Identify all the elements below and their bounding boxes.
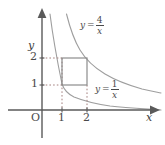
fraction-numerator: 4: [96, 16, 104, 25]
fraction-denominator: x: [96, 27, 103, 36]
y-tick-label-2: 2: [30, 51, 37, 62]
fraction-numerator: 1: [111, 80, 119, 89]
curve-label-equals: =: [102, 85, 110, 94]
curve-label-4-over-x: y = 4 x: [80, 15, 104, 36]
y-tick-label-1: 1: [31, 78, 38, 89]
curve-label-1-over-x: y = 1 x: [95, 79, 119, 100]
curve-label-lhs: y: [95, 85, 100, 94]
curve-label-lhs: y: [80, 21, 85, 30]
bounded-square: [62, 58, 87, 85]
dotted-guides: [42, 58, 87, 110]
y-axis-arrowhead: [38, 8, 47, 18]
fraction-1-over-x: 1 x: [111, 80, 119, 100]
x-tick-label-2: 2: [83, 112, 90, 123]
curve-label-equals: =: [87, 21, 95, 30]
x-axis-label: x: [146, 112, 152, 123]
math-figure: y x O 2 1 1 2 y = 4 x y = 1 x: [0, 0, 165, 145]
origin-label: O: [31, 112, 40, 123]
fraction-4-over-x: 4 x: [96, 16, 104, 36]
x-tick-label-1: 1: [58, 112, 65, 123]
fraction-denominator: x: [111, 91, 118, 100]
